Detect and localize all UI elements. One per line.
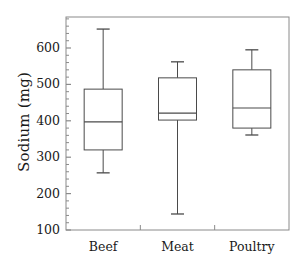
box-plot-figure: Sodium (mg) 100200300400500600BeefMeatPo… <box>0 0 303 270</box>
x-axis-category-label-beef: Beef <box>68 239 138 254</box>
box-iqr-rect <box>84 89 122 150</box>
box-plot-poultry <box>233 50 271 135</box>
y-axis-tick-label: 400 <box>26 113 60 128</box>
y-axis-tick-label: 300 <box>26 149 60 164</box>
x-axis-category-label-meat: Meat <box>143 239 213 254</box>
box-iqr-rect <box>159 78 197 120</box>
box-iqr-rect <box>233 70 271 128</box>
box-plot-beef <box>84 29 122 173</box>
y-axis-tick-label: 200 <box>26 186 60 201</box>
box-plot-meat <box>159 62 197 214</box>
y-axis-tick-label: 500 <box>26 76 60 91</box>
y-axis-tick-label: 600 <box>26 40 60 55</box>
y-axis-tick-label: 100 <box>26 222 60 237</box>
x-axis-category-label-poultry: Poultry <box>217 239 287 254</box>
